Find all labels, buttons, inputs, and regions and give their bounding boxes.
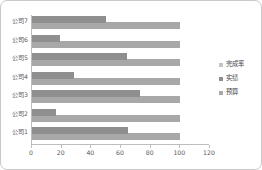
x-tick-label: 80 xyxy=(146,149,154,156)
legend-item[interactable]: 完成率 xyxy=(219,61,244,68)
x-tick xyxy=(90,145,91,148)
y-tick-label: 公司1 xyxy=(12,128,28,136)
bar-actual xyxy=(32,90,140,97)
x-tick-label: 0 xyxy=(29,149,33,156)
chart-legend: 完成率实绩预算 xyxy=(219,61,244,96)
legend-swatch-icon xyxy=(219,77,223,81)
x-tick-label: 40 xyxy=(86,149,94,156)
legend-item[interactable]: 实绩 xyxy=(219,75,244,82)
bar-budget xyxy=(32,96,180,103)
x-tick xyxy=(31,145,32,148)
bar-row: 公司3 xyxy=(32,89,210,108)
bar-row: 公司2 xyxy=(32,108,210,127)
bar-budget xyxy=(32,22,180,29)
bar-row: 公司1 xyxy=(32,126,210,145)
plot-area: 公司1公司2公司3公司4公司5公司6公司7 020406080100120 xyxy=(31,15,209,145)
bar-actual xyxy=(32,35,60,42)
bar-actual xyxy=(32,109,56,116)
chart-frame: 公司1公司2公司3公司4公司5公司6公司7 020406080100120 完成… xyxy=(0,0,262,170)
x-tick-label: 20 xyxy=(57,149,65,156)
y-tick-label: 公司7 xyxy=(12,17,28,25)
y-tick-label: 公司2 xyxy=(12,110,28,118)
bar-actual xyxy=(32,127,128,134)
legend-label: 实绩 xyxy=(226,75,238,82)
bar-budget xyxy=(32,78,180,85)
x-tick xyxy=(209,145,210,148)
y-tick-label: 公司4 xyxy=(12,73,28,81)
bar-row: 公司7 xyxy=(32,15,210,34)
bar-row: 公司6 xyxy=(32,34,210,53)
x-tick xyxy=(120,145,121,148)
legend-label: 预算 xyxy=(226,89,238,96)
legend-item[interactable]: 预算 xyxy=(219,89,244,96)
y-tick-label: 公司3 xyxy=(12,91,28,99)
x-tick xyxy=(179,145,180,148)
bar-budget xyxy=(32,41,180,48)
bar-actual xyxy=(32,72,74,79)
legend-swatch-icon xyxy=(219,63,223,67)
bar-actual xyxy=(32,16,106,23)
x-tick xyxy=(150,145,151,148)
legend-swatch-icon xyxy=(219,91,223,95)
y-tick-label: 公司6 xyxy=(12,36,28,44)
bar-row: 公司5 xyxy=(32,52,210,71)
bar-actual xyxy=(32,53,127,60)
x-tick xyxy=(61,145,62,148)
x-tick-label: 120 xyxy=(203,149,215,156)
x-tick-label: 100 xyxy=(173,149,185,156)
bar-budget xyxy=(32,115,180,122)
y-tick-label: 公司5 xyxy=(12,54,28,62)
bar-budget xyxy=(32,133,180,140)
x-tick-label: 60 xyxy=(116,149,124,156)
bar-budget xyxy=(32,59,180,66)
bar-row: 公司4 xyxy=(32,71,210,90)
legend-label: 完成率 xyxy=(226,61,244,68)
